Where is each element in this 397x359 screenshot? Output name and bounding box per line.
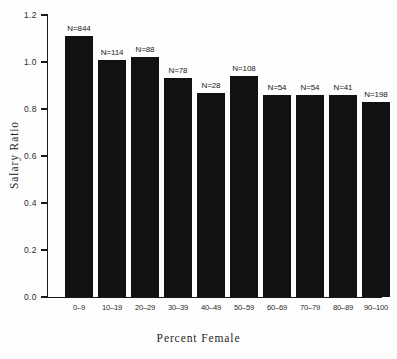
bar <box>263 95 291 297</box>
x-tick-label: 30–39 <box>168 303 188 312</box>
y-tick-label: 0.0 <box>24 292 37 302</box>
x-tick-label: 10–19 <box>102 303 122 312</box>
bar <box>296 95 324 297</box>
bar-value-label: N=198 <box>364 90 387 99</box>
plot-area: N=844N=114N=88N=78N=28N=108N=54N=54N=41N… <box>48 15 381 297</box>
x-tick-label: 90–100 <box>364 303 388 312</box>
x-tick-label: 80–89 <box>333 303 353 312</box>
bar-value-label: N=844 <box>67 24 90 33</box>
bar-value-label: N=114 <box>101 48 124 57</box>
x-axis-line <box>44 297 382 298</box>
x-tick-label: 40–49 <box>201 303 221 312</box>
x-axis-title: Percent Female <box>0 332 397 344</box>
y-tick-label: 0.6 <box>24 151 37 161</box>
x-tick-label: 0–9 <box>73 303 85 312</box>
y-tick-mark <box>41 296 48 297</box>
bar <box>164 78 192 297</box>
y-axis-title: Salary Ratio <box>8 105 20 205</box>
bar <box>230 76 258 297</box>
bar <box>98 60 126 297</box>
bar <box>329 95 357 297</box>
y-tick-label: 1.2 <box>24 10 37 20</box>
bar-value-label: N=41 <box>334 83 353 92</box>
x-tick-label: 20–29 <box>135 303 155 312</box>
bar-chart-figure: 0.00.20.40.60.81.01.2 N=844N=114N=88N=78… <box>0 0 397 359</box>
bar-value-label: N=54 <box>301 83 320 92</box>
bar <box>65 36 93 297</box>
y-tick-label: 0.8 <box>24 104 37 114</box>
y-tick-label: 0.2 <box>24 245 37 255</box>
x-tick-label: 70–79 <box>300 303 320 312</box>
y-tick-mark <box>41 249 48 250</box>
bar-value-label: N=28 <box>202 81 221 90</box>
y-tick-mark <box>41 61 48 62</box>
x-tick-label: 60–69 <box>267 303 287 312</box>
y-tick-mark <box>41 14 48 15</box>
y-tick-mark <box>41 108 48 109</box>
bar-value-label: N=88 <box>136 45 155 54</box>
bar-value-label: N=108 <box>232 64 255 73</box>
x-tick-label: 50–59 <box>234 303 254 312</box>
bar <box>131 57 159 297</box>
y-tick-label: 0.4 <box>24 198 37 208</box>
y-tick-label: 1.0 <box>24 57 37 67</box>
y-tick-mark <box>41 202 48 203</box>
bar <box>362 102 390 297</box>
bar-value-label: N=78 <box>169 66 188 75</box>
y-tick-mark <box>41 155 48 156</box>
bar-value-label: N=54 <box>268 83 287 92</box>
bar <box>197 93 225 297</box>
